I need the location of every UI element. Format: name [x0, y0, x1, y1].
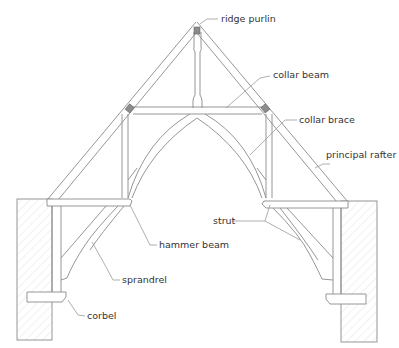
corbels: [27, 292, 366, 304]
label-hammer-beam: hammer beam: [159, 239, 229, 250]
label-collar-brace: collar brace: [299, 114, 355, 125]
hammer-beams: [47, 199, 348, 208]
label-sprandrel: sprandrel: [122, 274, 167, 285]
label-corbel: corbel: [87, 310, 116, 321]
left-wall: [17, 199, 52, 340]
label-collar-beam: collar beam: [273, 69, 329, 80]
label-strut: strut: [213, 215, 236, 226]
principal-rafters: [47, 22, 348, 202]
collar-beam: [130, 107, 265, 114]
hammer-posts: [122, 114, 272, 198]
label-ridge-purlin: ridge purlin: [221, 13, 276, 24]
leader-lines: [68, 19, 330, 316]
king-post: [193, 32, 202, 108]
collar-braces: [128, 114, 266, 198]
label-principal-rafter: principal rafter: [326, 149, 396, 160]
ridge-purlin: [194, 27, 200, 34]
right-wall: [341, 201, 377, 342]
hammer-beam-truss-diagram: ridge purlin collar beam collar brace pr…: [0, 0, 399, 348]
